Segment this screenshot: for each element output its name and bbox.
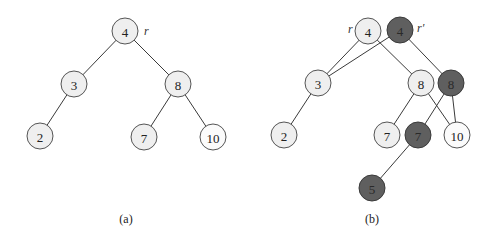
node-key: 7	[415, 129, 422, 144]
tree-node-7: 7	[374, 122, 400, 148]
node-key: 8	[175, 78, 182, 93]
caption-b: (b)	[365, 212, 379, 226]
tree-node-2: 2	[27, 123, 53, 149]
node-key: 5	[369, 182, 376, 197]
tree-node-2: 2	[271, 122, 297, 148]
node-key: 4	[397, 24, 404, 39]
node-key: 7	[141, 131, 148, 146]
caption-a: (a)	[119, 212, 132, 226]
tree-a-nodes: 4382710	[27, 18, 226, 150]
root-label-b: r	[348, 22, 353, 36]
new-node-5: 5	[359, 175, 385, 201]
node-key: 4	[122, 25, 129, 40]
root-label-a: r	[144, 24, 149, 38]
persistent-bst-figure: 4382710 44388277105 r r r′ (a) (b)	[0, 0, 494, 240]
node-key: 7	[384, 129, 391, 144]
tree-node-4: 4	[355, 18, 381, 44]
tree-node-10: 10	[200, 124, 226, 150]
tree-node-8: 8	[408, 70, 434, 96]
node-key: 3	[71, 78, 78, 93]
tree-node-7: 7	[131, 124, 157, 150]
tree-node-8: 8	[165, 71, 191, 97]
node-key: 3	[315, 77, 322, 92]
node-key: 8	[448, 77, 455, 92]
new-root-label-b: r′	[417, 21, 425, 35]
tree-node-3: 3	[305, 70, 331, 96]
node-key: 10	[451, 129, 464, 144]
new-node-7: 7	[405, 122, 431, 148]
node-key: 2	[37, 130, 44, 145]
tree-b-edges	[284, 30, 457, 188]
tree-node-10: 10	[444, 122, 470, 148]
node-key: 8	[418, 77, 425, 92]
new-node-8: 8	[438, 70, 464, 96]
new-node-4: 4	[387, 17, 413, 43]
tree-node-4: 4	[112, 18, 138, 44]
node-key: 2	[281, 129, 288, 144]
node-key: 4	[365, 25, 372, 40]
node-key: 10	[207, 131, 220, 146]
tree-node-3: 3	[61, 71, 87, 97]
